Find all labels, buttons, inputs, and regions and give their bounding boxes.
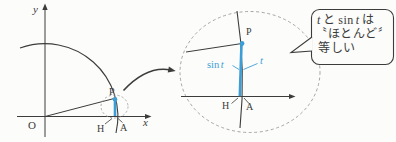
zoom-arrow-head-icon <box>168 67 176 73</box>
detail-h-label: H <box>222 100 229 111</box>
detail-point-p-dot <box>240 41 245 46</box>
detail-p-label: P <box>246 26 252 37</box>
x-axis-label: x <box>142 116 148 128</box>
bubble-mid: と <box>323 13 336 27</box>
detail-h-leader-line <box>232 98 239 104</box>
point-p-dot <box>113 97 118 102</box>
sin-t-label: sint <box>207 59 225 70</box>
bubble-line-1: tとsintは <box>317 13 374 27</box>
t-leader-line <box>244 64 258 70</box>
sin-t-label-sin: sin <box>207 59 220 70</box>
detail-sin-segment <box>240 44 242 96</box>
p-label: P <box>109 86 115 97</box>
a-label: A <box>120 122 128 133</box>
bubble-sin: sin <box>338 13 354 27</box>
zoom-arrow-line <box>124 69 171 90</box>
bubble-var-t1: t <box>317 13 321 27</box>
origin-label: O <box>28 119 36 131</box>
y-axis-arrow-icon <box>42 4 47 11</box>
bubble-line-2: 〝ほとんど〞 <box>315 27 390 41</box>
radius-op-line <box>45 98 116 117</box>
detail-radius-line <box>186 44 242 53</box>
detail-x-axis-arrow-icon <box>289 94 296 99</box>
detail-a-label: A <box>246 101 254 112</box>
sin-leader-line <box>233 66 240 70</box>
y-axis-label: y <box>32 3 38 15</box>
h-leader-line <box>105 119 112 125</box>
t-label: t <box>260 55 264 66</box>
speech-bubble-tail <box>291 37 312 53</box>
h-label: H <box>97 123 104 134</box>
bubble-end: は <box>362 13 375 27</box>
bubble-line-3: 等しい <box>318 41 356 55</box>
bubble-var-t2: t <box>356 13 360 27</box>
figure-canvas: y x O P H A P H A sint t tとsintは 〝ほとんど〞 … <box>0 0 396 142</box>
sin-t-label-var: t <box>221 59 225 70</box>
diagram-svg: y x O P H A P H A sint t tとsintは 〝ほとんど〞 … <box>0 0 396 142</box>
